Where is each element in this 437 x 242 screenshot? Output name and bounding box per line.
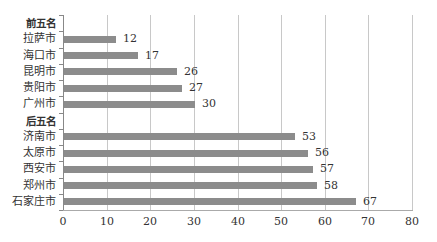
y-tick	[59, 194, 63, 195]
gridline	[368, 15, 369, 210]
bar	[64, 133, 295, 140]
bar-value-label: 56	[315, 147, 329, 159]
gridline	[107, 15, 108, 210]
bar-value-label: 26	[184, 66, 198, 78]
bar	[64, 150, 308, 157]
y-tick	[59, 15, 63, 16]
group-header: 前五名	[26, 17, 56, 29]
category-label: 海口市	[23, 50, 56, 62]
y-tick	[59, 145, 63, 146]
bar	[64, 198, 356, 205]
gridline	[412, 15, 413, 210]
x-tick-label: 60	[310, 215, 340, 228]
category-label: 太原市	[23, 147, 56, 159]
y-tick	[59, 161, 63, 162]
bar	[64, 101, 195, 108]
bar	[64, 85, 182, 92]
bar-value-label: 67	[363, 196, 377, 208]
x-tick-label: 50	[266, 215, 296, 228]
x-axis	[63, 210, 413, 211]
gridline	[194, 15, 195, 210]
y-axis	[63, 15, 64, 210]
bar	[64, 36, 116, 43]
x-tick-label: 30	[179, 215, 209, 228]
x-tick-label: 80	[397, 215, 427, 228]
x-tick-label: 0	[48, 215, 78, 228]
bar	[64, 166, 313, 173]
bar-value-label: 30	[202, 98, 216, 110]
bar-value-label: 58	[324, 180, 338, 192]
horizontal-bar-chart: 01020304050607080 前五名拉萨市12海口市17昆明市26贵阳市2…	[0, 0, 437, 242]
y-tick	[59, 129, 63, 130]
category-label: 西安市	[23, 163, 56, 175]
bar	[64, 68, 177, 75]
y-tick	[59, 48, 63, 49]
bar-value-label: 17	[145, 50, 159, 62]
bar-value-label: 27	[189, 82, 203, 94]
y-tick	[59, 178, 63, 179]
group-header: 后五名	[26, 115, 56, 127]
bar	[64, 52, 138, 59]
category-label: 广州市	[23, 98, 56, 110]
bar	[64, 182, 317, 189]
y-tick	[59, 210, 63, 211]
y-tick	[59, 31, 63, 32]
x-tick-label: 40	[223, 215, 253, 228]
y-tick	[59, 113, 63, 114]
category-label: 郑州市	[23, 180, 56, 192]
bar-value-label: 57	[320, 163, 334, 175]
category-label: 石家庄市	[12, 196, 56, 208]
category-label: 济南市	[23, 131, 56, 143]
gridline	[281, 15, 282, 210]
x-tick-label: 20	[135, 215, 165, 228]
y-tick	[59, 80, 63, 81]
category-label: 贵阳市	[23, 82, 56, 94]
bar-value-label: 53	[302, 131, 316, 143]
y-tick	[59, 64, 63, 65]
bar-value-label: 12	[123, 33, 137, 45]
y-tick	[59, 96, 63, 97]
gridline	[150, 15, 151, 210]
gridline	[238, 15, 239, 210]
category-label: 昆明市	[23, 66, 56, 78]
x-tick-label: 70	[353, 215, 383, 228]
x-tick-label: 10	[92, 215, 122, 228]
category-label: 拉萨市	[23, 33, 56, 45]
